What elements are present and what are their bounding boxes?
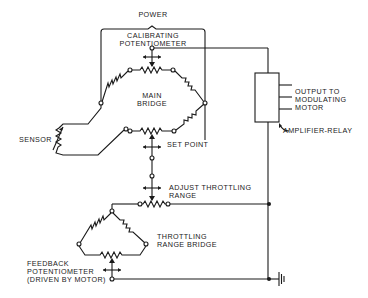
adjust-throttling-label-line2: RANGE <box>169 192 197 200</box>
power-label: POWER <box>129 11 177 19</box>
main-bridge-label-line2: BRIDGE <box>130 100 174 108</box>
amplifier-relay <box>255 73 292 279</box>
schematic-diagram: POWER CALIBRATING POTENTIOMETER MAIN BRI… <box>0 0 368 298</box>
calibrating-potentiometer <box>128 46 268 73</box>
adjust-throttling-potentiometer <box>112 201 271 209</box>
calibrating-potentiometer-label-line2: POTENTIOMETER <box>114 40 192 48</box>
ground-icon <box>269 272 284 286</box>
throttling-range-bridge-label-line2: RANGE BRIDGE <box>157 241 217 249</box>
amplifier-relay-label: AMPLIFIER-RELAY <box>283 127 352 135</box>
output-label-line3: MOTOR <box>295 104 324 112</box>
feedback-potentiometer-label-line3: (DRIVEN BY MOTOR) <box>27 276 106 284</box>
sensor <box>53 105 124 155</box>
sensor-label: SENSOR <box>19 136 52 144</box>
link-wire <box>143 160 161 201</box>
set-point-potentiometer <box>124 127 172 160</box>
set-point-label: SET POINT <box>167 141 208 149</box>
